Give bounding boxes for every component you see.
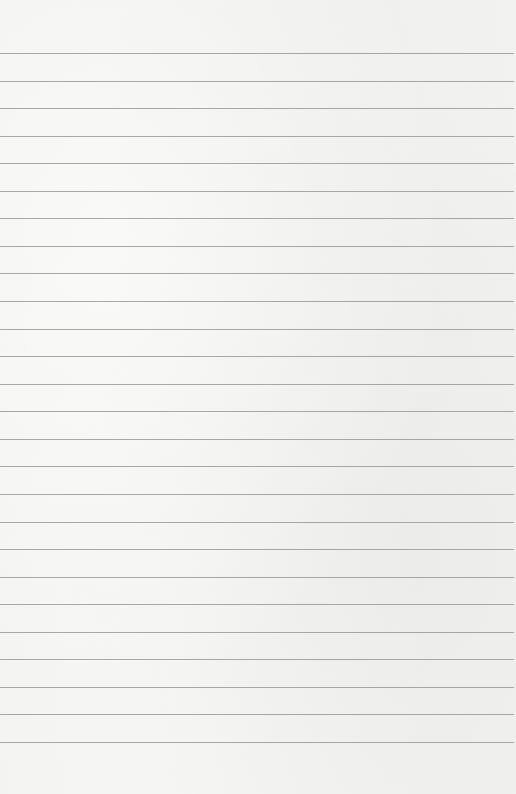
ruled-line [0,163,514,164]
ruled-line [0,273,514,274]
ruled-line [0,191,514,192]
ruled-line [0,136,514,137]
ruled-line [0,411,514,412]
ruled-line [0,108,514,109]
ruled-line [0,494,514,495]
lined-paper-sheet [0,0,516,794]
ruled-line [0,522,514,523]
ruled-line [0,687,514,688]
ruled-line [0,604,514,605]
ruled-line [0,218,514,219]
ruled-line [0,439,514,440]
ruled-line [0,356,514,357]
ruled-line [0,384,514,385]
ruled-line [0,742,514,743]
ruled-line [0,301,514,302]
ruled-line [0,577,514,578]
ruled-line [0,659,514,660]
ruled-line [0,246,514,247]
ruled-line [0,53,514,54]
ruled-line [0,714,514,715]
ruled-line [0,466,514,467]
ruled-line [0,81,514,82]
ruled-line [0,632,514,633]
ruled-line [0,549,514,550]
ruled-line [0,329,514,330]
